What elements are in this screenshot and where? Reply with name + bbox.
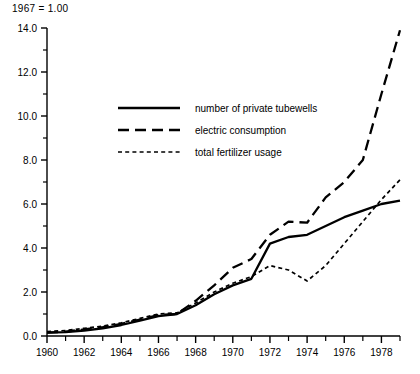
series-line-0: [47, 201, 400, 333]
y-axis-tick-label: 4.0: [23, 243, 37, 254]
x-axis-tick-label: 1962: [73, 347, 96, 358]
x-axis-tick-label: 1978: [370, 347, 393, 358]
line-chart: 1967 = 1.00 0.02.04.06.08.010.012.014.01…: [0, 0, 420, 374]
legend-label-2: total fertilizer usage: [195, 147, 282, 158]
y-axis-tick-label: 6.0: [23, 199, 37, 210]
x-axis-tick-label: 1960: [36, 347, 59, 358]
y-axis-tick-label: 12.0: [18, 67, 38, 78]
y-axis-tick-label: 14.0: [18, 23, 38, 34]
y-axis-tick-label: 8.0: [23, 155, 37, 166]
legend-label-0: number of private tubewells: [195, 103, 317, 114]
y-axis-tick-label: 0.0: [23, 331, 37, 342]
plot-area: 0.02.04.06.08.010.012.014.01960196219641…: [0, 0, 420, 374]
y-axis-tick-label: 2.0: [23, 287, 37, 298]
x-axis-tick-label: 1968: [185, 347, 208, 358]
y-axis-tick-label: 10.0: [18, 111, 38, 122]
x-axis-tick-label: 1976: [333, 347, 356, 358]
x-axis-tick-label: 1974: [296, 347, 319, 358]
x-axis-tick-label: 1972: [259, 347, 282, 358]
x-axis-tick-label: 1966: [147, 347, 170, 358]
legend-label-1: electric consumption: [195, 125, 286, 136]
x-axis-tick-label: 1964: [110, 347, 133, 358]
x-axis-tick-label: 1970: [222, 347, 245, 358]
series-line-1: [47, 30, 400, 333]
series-line-2: [47, 180, 400, 332]
